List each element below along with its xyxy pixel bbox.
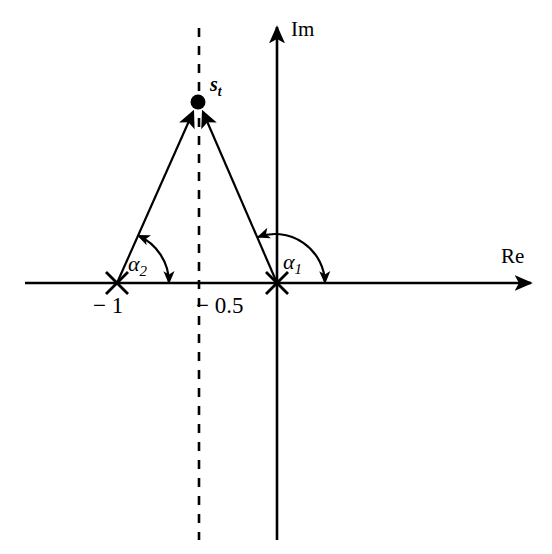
figure-root: Im Re st α1 α2 − 1 − 0.5 — [0, 0, 552, 554]
alpha-2-subscript: 2 — [140, 263, 147, 279]
point-st-base: s — [210, 73, 218, 95]
point-st-marker — [191, 95, 206, 110]
angle-alpha-1-label: α1 — [283, 251, 302, 277]
angle-alpha-2-label: α2 — [128, 253, 147, 279]
tick-label-minus-one: − 1 — [93, 294, 123, 317]
tick-label-minus-half: − 0.5 — [196, 294, 243, 317]
alpha-1-symbol: α — [283, 249, 295, 274]
alpha-1-subscript: 1 — [295, 261, 302, 277]
point-st-subscript: t — [218, 84, 222, 99]
point-st-label: st — [210, 74, 222, 99]
alpha-2-symbol: α — [128, 251, 140, 276]
diagram-canvas — [0, 0, 552, 554]
re-axis-label: Re — [501, 246, 524, 267]
im-axis-label: Im — [291, 19, 314, 40]
vector-from-origin — [203, 112, 277, 283]
